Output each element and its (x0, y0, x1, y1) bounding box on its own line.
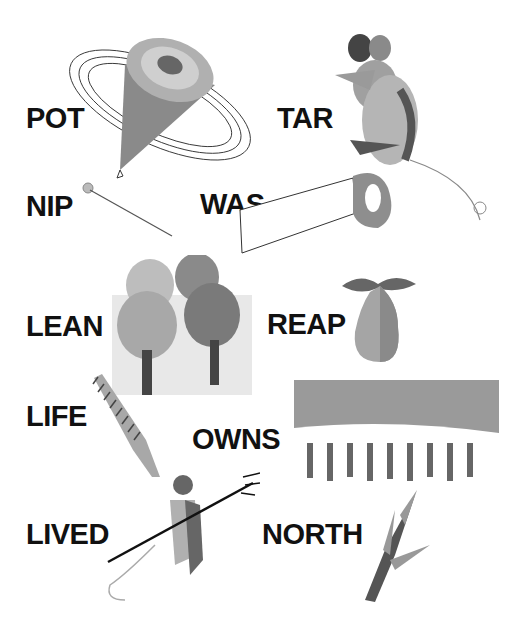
word-life: LIFE (26, 402, 87, 431)
word-lean: LEAN (26, 312, 103, 341)
branch-picture (355, 490, 435, 610)
word-lived: LIVED (26, 520, 109, 549)
devil-picture (105, 465, 260, 615)
pin-picture (80, 180, 180, 240)
saw-picture (238, 168, 398, 258)
word-nip: NIP (26, 192, 73, 221)
word-owns: OWNS (192, 425, 280, 454)
spinning-top-picture (60, 30, 260, 180)
word-tar: TAR (277, 104, 333, 133)
hedge-forest-picture (292, 378, 502, 483)
word-reap: REAP (267, 310, 346, 339)
word-north: NORTH (262, 520, 363, 549)
pear-picture (340, 262, 420, 367)
